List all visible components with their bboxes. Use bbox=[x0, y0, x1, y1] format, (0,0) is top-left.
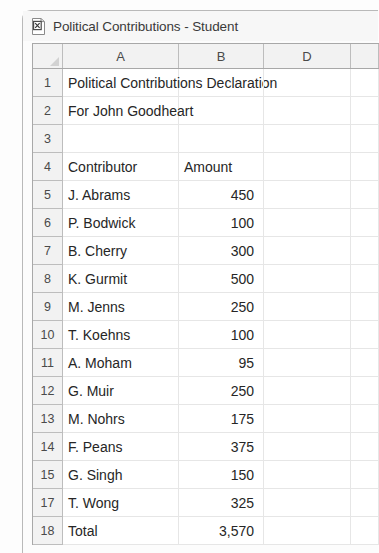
cell-partial[interactable] bbox=[351, 405, 379, 432]
cell-a[interactable]: A. Moham bbox=[63, 349, 179, 376]
table-row: 7B. Cherry300 bbox=[33, 237, 379, 265]
cell-a[interactable]: M. Nohrs bbox=[63, 405, 179, 432]
cell-partial[interactable] bbox=[351, 69, 379, 96]
row-header[interactable]: 18 bbox=[33, 517, 63, 545]
cell-partial[interactable] bbox=[351, 265, 379, 292]
cell-b[interactable]: 100 bbox=[179, 321, 264, 348]
cell-a[interactable]: Political Contributions Declaration bbox=[63, 69, 179, 96]
cell-d[interactable] bbox=[264, 181, 351, 208]
row-header[interactable]: 17 bbox=[33, 489, 63, 517]
cell-d[interactable] bbox=[264, 349, 351, 376]
cell-d[interactable] bbox=[264, 433, 351, 460]
cell-a[interactable]: For John Goodheart bbox=[63, 97, 179, 124]
row-header[interactable]: 2 bbox=[33, 97, 63, 125]
scanned-page: Political Contributions - Student A B D … bbox=[0, 0, 379, 553]
row-header[interactable]: 3 bbox=[33, 125, 63, 153]
table-row: 2For John Goodheart bbox=[33, 97, 379, 125]
cell-b[interactable]: 500 bbox=[179, 265, 264, 292]
cell-b[interactable]: 175 bbox=[179, 405, 264, 432]
cell-partial[interactable] bbox=[351, 209, 379, 236]
spreadsheet-grid: A B D 1Political Contributions Declarati… bbox=[32, 43, 379, 545]
cell-a[interactable]: T. Wong bbox=[63, 489, 179, 516]
cell-d[interactable] bbox=[264, 209, 351, 236]
row-header[interactable]: 8 bbox=[33, 265, 63, 293]
cell-b[interactable]: 450 bbox=[179, 181, 264, 208]
row-header[interactable]: 7 bbox=[33, 237, 63, 265]
cell-d[interactable] bbox=[264, 237, 351, 264]
column-header-partial[interactable] bbox=[351, 44, 379, 68]
cell-partial[interactable] bbox=[351, 181, 379, 208]
cell-partial[interactable] bbox=[351, 237, 379, 264]
table-row: 18Total3,570 bbox=[33, 517, 379, 545]
cell-d[interactable] bbox=[264, 461, 351, 488]
cell-d[interactable] bbox=[264, 125, 351, 152]
cell-b[interactable]: Amount bbox=[179, 153, 264, 180]
cell-a[interactable]: Contributor bbox=[63, 153, 179, 180]
cell-b[interactable] bbox=[179, 97, 264, 124]
cell-b[interactable]: 250 bbox=[179, 293, 264, 320]
cell-partial[interactable] bbox=[351, 97, 379, 124]
cell-b[interactable]: 250 bbox=[179, 377, 264, 404]
cell-d[interactable] bbox=[264, 377, 351, 404]
cell-a[interactable]: T. Koehns bbox=[63, 321, 179, 348]
row-header[interactable]: 4 bbox=[33, 153, 63, 181]
select-all-triangle-icon bbox=[50, 57, 59, 66]
cell-d[interactable] bbox=[264, 405, 351, 432]
cell-a[interactable] bbox=[63, 125, 179, 152]
cell-partial[interactable] bbox=[351, 349, 379, 376]
row-header[interactable]: 12 bbox=[33, 377, 63, 405]
table-row: 9M. Jenns250 bbox=[33, 293, 379, 321]
row-header[interactable]: 13 bbox=[33, 405, 63, 433]
select-all-corner[interactable] bbox=[33, 44, 63, 68]
cell-a[interactable]: M. Jenns bbox=[63, 293, 179, 320]
cell-b[interactable]: 100 bbox=[179, 209, 264, 236]
column-header-a[interactable]: A bbox=[63, 44, 179, 68]
cell-a[interactable]: K. Gurmit bbox=[63, 265, 179, 292]
column-header-d[interactable]: D bbox=[264, 44, 351, 68]
cell-b[interactable]: 3,570 bbox=[179, 517, 264, 544]
cell-b[interactable]: 150 bbox=[179, 461, 264, 488]
row-header[interactable]: 14 bbox=[33, 433, 63, 461]
cell-partial[interactable] bbox=[351, 489, 379, 516]
cell-b[interactable]: 375 bbox=[179, 433, 264, 460]
cell-partial[interactable] bbox=[351, 153, 379, 180]
window-title-bar: Political Contributions - Student bbox=[23, 11, 378, 41]
row-header[interactable]: 6 bbox=[33, 209, 63, 237]
table-row: 13M. Nohrs175 bbox=[33, 405, 379, 433]
cell-d[interactable] bbox=[264, 321, 351, 348]
cell-a[interactable]: F. Peans bbox=[63, 433, 179, 460]
cell-partial[interactable] bbox=[351, 377, 379, 404]
cell-a[interactable]: B. Cherry bbox=[63, 237, 179, 264]
cell-a[interactable]: Total bbox=[63, 517, 179, 544]
row-header[interactable]: 15 bbox=[33, 461, 63, 489]
row-header[interactable]: 10 bbox=[33, 321, 63, 349]
cell-partial[interactable] bbox=[351, 321, 379, 348]
row-header[interactable]: 9 bbox=[33, 293, 63, 321]
cell-d[interactable] bbox=[264, 153, 351, 180]
cell-a-text: For John Goodheart bbox=[68, 103, 193, 119]
cell-a[interactable]: G. Singh bbox=[63, 461, 179, 488]
cell-d[interactable] bbox=[264, 265, 351, 292]
cell-a[interactable]: G. Muir bbox=[63, 377, 179, 404]
cell-b[interactable]: 325 bbox=[179, 489, 264, 516]
cell-partial[interactable] bbox=[351, 293, 379, 320]
cell-b[interactable] bbox=[179, 125, 264, 152]
cell-partial[interactable] bbox=[351, 461, 379, 488]
row-header[interactable]: 1 bbox=[33, 69, 63, 97]
cell-d[interactable] bbox=[264, 517, 351, 544]
table-row: 15G. Singh150 bbox=[33, 461, 379, 489]
column-header-b[interactable]: B bbox=[179, 44, 264, 68]
cell-d[interactable] bbox=[264, 97, 351, 124]
cell-d[interactable] bbox=[264, 489, 351, 516]
cell-b[interactable]: 95 bbox=[179, 349, 264, 376]
cell-d[interactable] bbox=[264, 293, 351, 320]
cell-b[interactable]: 300 bbox=[179, 237, 264, 264]
cell-partial[interactable] bbox=[351, 125, 379, 152]
cell-b[interactable] bbox=[179, 69, 264, 96]
cell-a[interactable]: J. Abrams bbox=[63, 181, 179, 208]
cell-partial[interactable] bbox=[351, 517, 379, 544]
row-header[interactable]: 5 bbox=[33, 181, 63, 209]
cell-a[interactable]: P. Bodwick bbox=[63, 209, 179, 236]
cell-partial[interactable] bbox=[351, 433, 379, 460]
row-header[interactable]: 11 bbox=[33, 349, 63, 377]
